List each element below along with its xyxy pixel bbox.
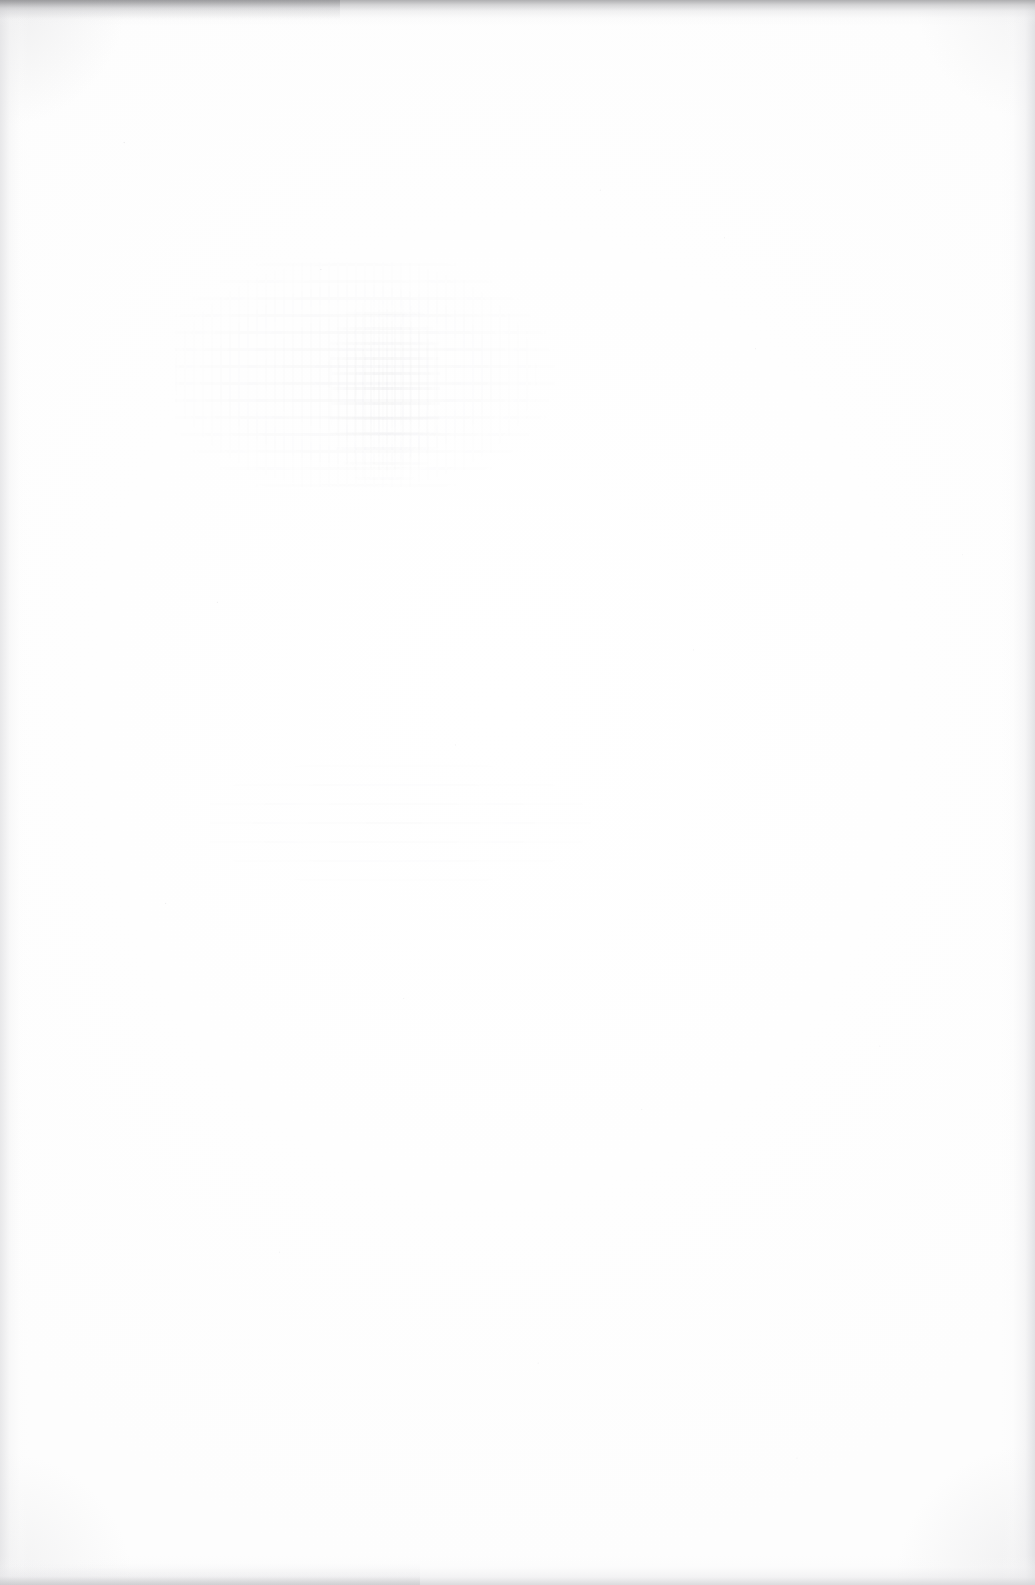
top-left-scan-edge-accent bbox=[0, 0, 340, 20]
scanned-page bbox=[0, 0, 1035, 1585]
right-scan-edge bbox=[1001, 0, 1035, 1585]
bottom-left-scan-edge-accent bbox=[0, 1563, 420, 1585]
corner-vignette bbox=[0, 0, 1035, 1585]
left-scan-edge bbox=[0, 0, 30, 1585]
